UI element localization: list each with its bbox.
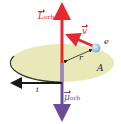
label-v: v <box>82 27 87 36</box>
label-e: e <box>104 38 109 46</box>
label-i: i <box>36 86 39 94</box>
label-v-main: v <box>82 27 87 36</box>
diagram-canvas <box>0 0 121 124</box>
label-r: r <box>79 54 83 62</box>
label-mu-orb: μorb <box>64 93 80 102</box>
orbital-moment-diagram: Lorb v e r A i μorb <box>0 0 121 124</box>
label-L-orb: Lorb <box>38 12 54 21</box>
label-mu-sub: orb <box>70 94 80 101</box>
label-L-sub: orb <box>44 13 54 20</box>
label-mu-main: μ <box>64 93 70 102</box>
electron <box>92 44 101 53</box>
label-L-main: L <box>38 12 44 21</box>
label-A: A <box>97 64 104 73</box>
